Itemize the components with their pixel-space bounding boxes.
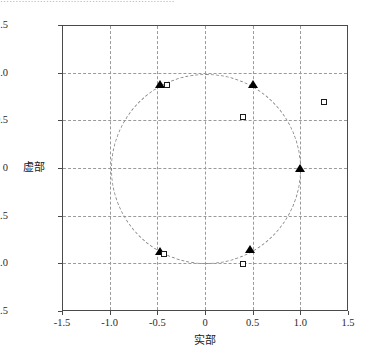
chart-page: ………………………………………………… 实部 虚部 1.51.00.50-0.5… xyxy=(0,0,365,354)
unit-circle-annotation xyxy=(111,74,302,265)
y-tick-label: 0.5 xyxy=(0,115,8,126)
y-tick-label: 1.5 xyxy=(0,20,8,31)
y-tick-label: 0 xyxy=(0,163,8,174)
pole-marker xyxy=(161,251,167,257)
x-tick-label: -1.5 xyxy=(39,318,85,329)
y-tick-label: 1.0 xyxy=(0,68,8,79)
x-tick-mark xyxy=(348,311,349,315)
pole-marker xyxy=(240,114,246,120)
x-tick-mark xyxy=(300,311,301,315)
y-tick-label: -1.5 xyxy=(0,306,8,317)
x-tick-label: 1.5 xyxy=(325,318,365,329)
y-axis-label: 虚部 xyxy=(4,162,64,173)
x-tick-label: 0.5 xyxy=(230,318,276,329)
pole-marker xyxy=(164,82,170,88)
x-tick-label: -0.5 xyxy=(134,318,180,329)
x-axis-label: 实部 xyxy=(145,335,265,346)
pole-marker xyxy=(321,99,327,105)
y-tick-label: -1.0 xyxy=(0,258,8,269)
x-tick-mark xyxy=(110,311,111,315)
y-tick-mark xyxy=(58,25,62,26)
x-tick-mark xyxy=(253,311,254,315)
pole-marker xyxy=(240,261,246,267)
x-tick-mark xyxy=(205,311,206,315)
x-tick-label: 1.0 xyxy=(277,318,323,329)
x-tick-mark xyxy=(157,311,158,315)
y-tick-mark xyxy=(58,263,62,264)
y-tick-mark xyxy=(58,73,62,74)
zero-marker xyxy=(245,245,255,253)
y-tick-mark xyxy=(58,216,62,217)
x-tick-mark xyxy=(62,311,63,315)
x-tick-label: -1.0 xyxy=(87,318,133,329)
zero-marker xyxy=(295,164,305,172)
clipped-caption-text: ………………………………………………… xyxy=(0,0,365,4)
zero-marker xyxy=(248,80,258,88)
y-tick-mark xyxy=(58,168,62,169)
x-tick-label: 0 xyxy=(182,318,228,329)
y-tick-mark xyxy=(58,120,62,121)
y-tick-label: -0.5 xyxy=(0,211,8,222)
clipped-caption: ………………………………………………… xyxy=(0,0,365,7)
